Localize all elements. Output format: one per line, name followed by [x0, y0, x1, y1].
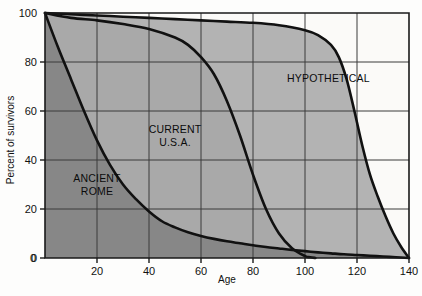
x-tick-label: 20: [91, 265, 103, 277]
y-tick-label: 100: [19, 7, 37, 19]
x-tick-label: 40: [143, 265, 155, 277]
region-label: CURRENT: [149, 123, 202, 135]
region-label: U.S.A.: [159, 136, 191, 148]
y-tick-label: 40: [25, 154, 37, 166]
x-tick-label: 60: [195, 265, 207, 277]
y-tick-label: 80: [25, 56, 37, 68]
y-tick-label: 60: [25, 105, 37, 117]
y-tick-label: 0: [31, 252, 37, 264]
chart-container: Age Percent of survivors 020406080100120…: [0, 0, 422, 296]
x-axis-title: Age: [218, 274, 236, 285]
survivorship-chart: Age Percent of survivors 020406080100120…: [0, 0, 422, 296]
x-tick-label: 80: [247, 265, 259, 277]
region-label: HYPOTHETICAL: [287, 72, 370, 84]
region-label: ANCIENT: [73, 172, 121, 184]
x-tick-label: 140: [400, 265, 418, 277]
x-tick-label: 120: [348, 265, 366, 277]
y-tick-label: 20: [25, 203, 37, 215]
region-label: ROME: [81, 185, 113, 197]
y-axis-title: Percent of survivors: [5, 96, 16, 184]
x-tick-label: 100: [296, 265, 314, 277]
